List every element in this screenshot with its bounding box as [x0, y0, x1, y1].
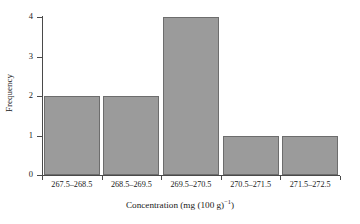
x-tick-1 [102, 176, 103, 180]
x-axis-title-exponent: −1 [224, 198, 231, 205]
x-tick-label-4: 270.5–271.5 [221, 180, 281, 190]
bar-4 [223, 136, 279, 176]
y-tick-label-0: 0 [11, 170, 33, 179]
y-axis-title: Frequency [4, 53, 14, 133]
bar-1 [44, 96, 100, 175]
x-tick-3 [221, 176, 222, 180]
bar-5 [282, 136, 338, 176]
x-axis-title-tail: ) [231, 200, 234, 210]
bar-2 [103, 96, 159, 175]
x-tick-label-3: 269.5–270.5 [161, 180, 221, 190]
x-axis-line [42, 175, 340, 176]
y-tick-label-1: 1 [11, 131, 33, 140]
x-tick-2 [161, 176, 162, 180]
x-tick-5 [340, 176, 341, 180]
x-tick-0 [42, 176, 43, 180]
y-tick-label-2: 2 [11, 91, 33, 100]
x-tick-4 [280, 176, 281, 180]
histogram-figure: 01234 267.5–268.5268.5–269.5269.5–270.52… [0, 0, 360, 224]
bar-series [42, 17, 340, 175]
x-axis-title-base: Concentration (mg (100 g) [126, 200, 224, 210]
y-tick-label-4: 4 [11, 12, 33, 21]
x-tick-label-1: 267.5–268.5 [42, 180, 102, 190]
x-tick-label-5: 271.5–272.5 [280, 180, 340, 190]
y-tick-label-3: 3 [11, 52, 33, 61]
x-axis-title: Concentration (mg (100 g)−1) [0, 199, 360, 211]
bar-3 [163, 17, 219, 175]
x-tick-label-2: 268.5–269.5 [102, 180, 162, 190]
